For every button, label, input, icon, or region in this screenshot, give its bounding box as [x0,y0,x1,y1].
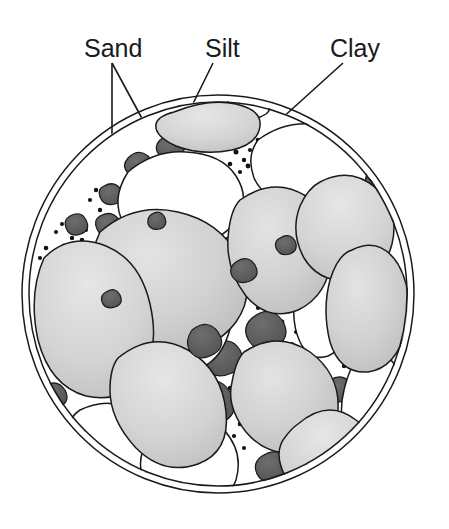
label-clay: Clay [330,34,381,62]
clay-particle [187,324,221,357]
clay-particle [276,236,297,255]
label-sand: Sand [84,34,142,62]
clay-particle [148,212,166,229]
soil-cross-section-diagram: Sand Silt Clay [0,0,449,529]
clay-particle [65,214,88,235]
clay-particle [102,290,122,308]
sand-grain [326,245,409,372]
diagram-svg: Sand Silt Clay [0,0,449,529]
label-group: Sand Silt Clay [84,34,381,62]
label-silt: Silt [205,34,240,62]
